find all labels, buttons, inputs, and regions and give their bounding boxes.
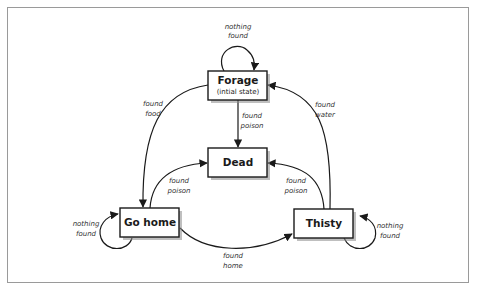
edge-go-home-to-dead: found poison	[150, 163, 207, 208]
edge-label: found	[315, 101, 336, 109]
edge-label: found	[223, 252, 244, 260]
state-label: Go home	[124, 216, 176, 228]
edge-label: found	[76, 230, 97, 238]
edge-label: food	[145, 110, 161, 118]
edge-label: home	[223, 262, 243, 270]
edge-label: poison	[239, 122, 263, 130]
edge-label: nothing	[377, 222, 404, 230]
state-sublabel: (intial state)	[217, 88, 260, 96]
edge-thisty-to-dead: found poison	[268, 163, 324, 209]
edge-label: nothing	[73, 220, 100, 228]
state-dead: Dead	[208, 148, 270, 180]
edge-label: found	[143, 100, 164, 108]
edge-forage-self-loop: nothing found	[221, 23, 254, 71]
edge-label: water	[315, 111, 336, 119]
state-label: Forage	[218, 74, 259, 86]
edge-label: poison	[166, 187, 190, 195]
edge-label: found	[286, 177, 307, 185]
state-diagram: nothing found found food found poison fo…	[0, 0, 478, 291]
state-label: Thisty	[306, 217, 343, 229]
edge-label: found	[380, 232, 401, 240]
state-forage: Forage (intial state)	[208, 71, 270, 103]
edge-label: found	[169, 177, 190, 185]
edge-label: found	[242, 112, 263, 120]
edge-forage-to-dead: found poison	[238, 100, 264, 147]
state-label: Dead	[223, 156, 253, 168]
state-thisty: Thisty	[294, 209, 356, 241]
edge-go-home-to-thisty: found home	[180, 228, 292, 270]
edge-label: found	[228, 32, 249, 40]
state-go-home: Go home	[120, 208, 182, 240]
edge-label: nothing	[225, 23, 252, 31]
edge-label: poison	[283, 187, 307, 195]
